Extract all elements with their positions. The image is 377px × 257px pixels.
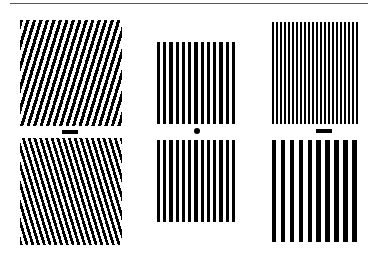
right-top-grating — [272, 22, 360, 124]
middle-fixation-dot-icon — [194, 128, 200, 134]
left-fixation-bar-icon — [62, 130, 78, 134]
top-rule — [10, 3, 368, 4]
right-bottom-grating — [272, 140, 360, 242]
middle-top-grating — [157, 42, 238, 124]
right-fixation-bar-icon — [316, 129, 332, 133]
left-top-grating — [20, 20, 122, 126]
middle-bottom-grating — [157, 140, 238, 222]
left-bottom-grating — [20, 138, 122, 245]
